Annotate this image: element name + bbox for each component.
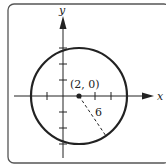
radius-label: 6 <box>95 106 102 119</box>
y-axis-label: y <box>58 4 66 17</box>
center-label: (2, 0) <box>70 78 100 91</box>
x-axis-label: x <box>157 90 164 103</box>
circle-diagram: x y (2, 0) 6 <box>0 0 166 168</box>
y-axis-arrow-icon <box>60 16 67 29</box>
y-axis: y <box>58 4 67 158</box>
x-axis: x <box>14 90 164 103</box>
x-axis-arrow-icon <box>142 93 154 100</box>
